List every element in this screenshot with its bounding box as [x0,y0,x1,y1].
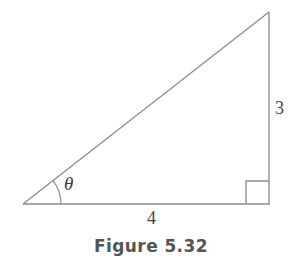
angle-label-theta: θ [64,174,73,193]
side-label-height: 3 [275,99,284,117]
triangle-hypotenuse-line [23,12,269,204]
angle-arc-icon [53,180,61,204]
figure-caption: Figure 5.32 [0,236,302,256]
figure-container: θ 4 3 Figure 5.32 [0,0,302,262]
side-label-base: 4 [147,209,156,227]
right-angle-marker-icon [246,181,269,204]
